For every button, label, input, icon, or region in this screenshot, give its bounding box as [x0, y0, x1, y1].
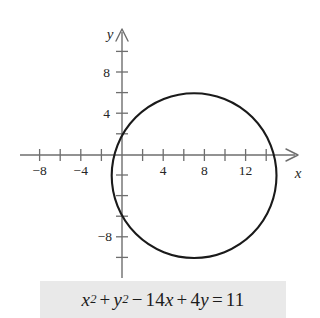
equation-term-4y-var: y: [200, 289, 209, 311]
y-tick-label-neg8: −8: [98, 229, 113, 244]
equation-operator-plus-2: +: [174, 289, 191, 311]
x-tick-label-4: 4: [160, 163, 167, 178]
x-axis-label: x: [294, 165, 302, 181]
equation-term-y: y: [114, 289, 123, 311]
equation-operator-minus: −: [129, 289, 146, 311]
x-tick-label-8: 8: [201, 163, 208, 178]
equation-coefficient-4: 4: [191, 289, 201, 311]
graph-figure: −8 −4 4 8 12 8 4 −8 y x x2+y2−14x+4y=11: [0, 0, 320, 318]
equation-term-14x-var: x: [165, 289, 174, 311]
equation-operator-plus-1: +: [97, 289, 114, 311]
y-axis-label: y: [105, 26, 114, 42]
y-tick-label-8: 8: [103, 65, 110, 80]
y-tick-label-4: 4: [103, 106, 110, 121]
x-tick-label-neg8: −8: [32, 163, 47, 178]
equation-coefficient-14: 14: [146, 289, 165, 311]
equation-term-x: x: [82, 289, 91, 311]
x-tick-label-12: 12: [239, 163, 253, 178]
equation-right-hand-side: 11: [226, 289, 245, 311]
x-tick-label-neg4: −4: [74, 163, 89, 178]
coordinate-plot: −8 −4 4 8 12 8 4 −8 y x: [0, 0, 320, 280]
equation-caption: x2+y2−14x+4y=11: [40, 281, 286, 318]
equation-equals-sign: =: [209, 289, 226, 311]
